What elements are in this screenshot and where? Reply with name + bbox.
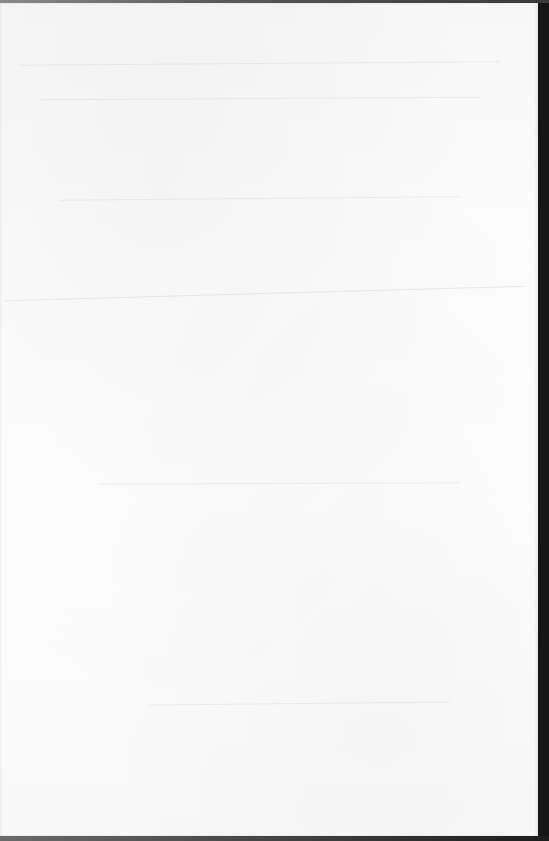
scan-frame [0, 0, 549, 841]
blank-page [0, 3, 538, 836]
scan-bottom-edge [0, 836, 549, 841]
page-body [40, 43, 498, 796]
